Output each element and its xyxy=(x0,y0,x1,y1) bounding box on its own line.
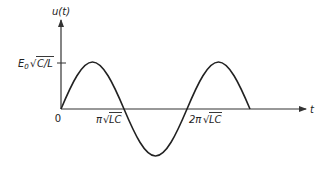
sine-wave-diagram: u(t) t 0 E0 √ C/L π √ LC 2π √ LC xyxy=(0,0,326,170)
svg-text:π: π xyxy=(96,114,103,125)
x-axis-label: t xyxy=(310,104,315,115)
amplitude-label: E0 √ C/L xyxy=(18,57,54,72)
origin-label: 0 xyxy=(55,113,61,124)
y-axis-label: u(t) xyxy=(52,6,70,17)
svg-text:LC: LC xyxy=(109,114,122,125)
svg-text:E0: E0 xyxy=(18,58,29,71)
svg-text:C/L: C/L xyxy=(37,58,53,69)
x-tick-label-2pi: 2π √ LC xyxy=(189,113,222,126)
svg-text:2π: 2π xyxy=(189,114,202,125)
x-tick-label-pi: π √ LC xyxy=(96,113,122,126)
svg-text:√: √ xyxy=(30,58,37,69)
svg-text:LC: LC xyxy=(209,114,222,125)
